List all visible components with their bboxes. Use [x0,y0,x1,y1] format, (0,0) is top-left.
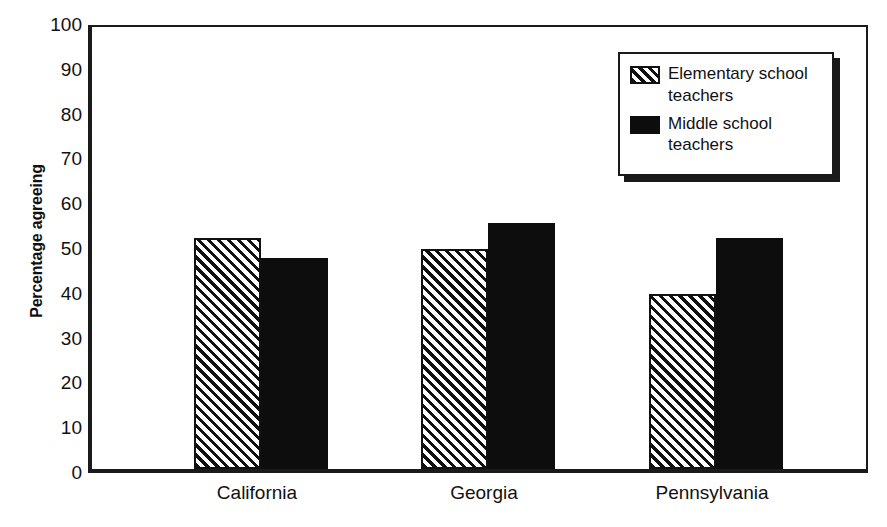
bar [488,223,555,469]
y-axis-tick-label: 100 [36,14,82,36]
bar-chart-figure: Percentage agreeing 01020304050607080901… [0,0,887,527]
bar [649,294,716,469]
bar [421,249,488,469]
y-axis-tick-label: 60 [36,193,82,215]
bar [716,238,783,469]
y-axis-tick-label: 50 [36,238,82,260]
x-axis-category-label: Georgia [377,482,591,504]
y-axis-tick-label: 40 [36,283,82,305]
legend-entry: Middle school teachers [630,113,824,157]
x-axis-category-label: California [150,482,364,504]
y-axis-tick-label: 70 [36,148,82,170]
x-axis-category-label: Pennsylvania [605,482,819,504]
solid-swatch-icon [630,116,660,134]
bar [194,238,261,469]
y-axis-tick-label: 10 [36,417,82,439]
y-axis-tick-label: 90 [36,59,82,81]
legend-label: Elementary school teachers [668,63,824,107]
legend-label: Middle school teachers [668,113,824,157]
legend-entry: Elementary school teachers [630,63,824,107]
y-axis-tick-label: 20 [36,372,82,394]
bar [261,258,328,469]
hatch-swatch-icon [630,66,660,84]
y-axis-tick-label: 80 [36,104,82,126]
chart-legend: Elementary school teachers Middle school… [618,52,834,176]
y-axis-tick-label: 0 [36,462,82,484]
y-axis-tick-label: 30 [36,328,82,350]
